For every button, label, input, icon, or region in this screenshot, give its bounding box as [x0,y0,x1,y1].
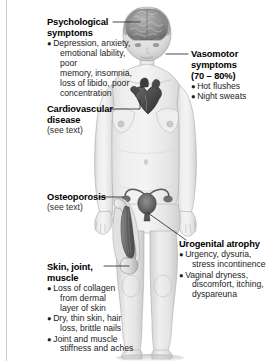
list-item-line: emotional lability, poor [54,49,143,69]
callout-vasomotor-symptoms: Vasomotor symptoms (70 – 80%) ●Hot flush… [191,49,271,102]
callout-heading: Cardiovascular [47,104,139,115]
list-item-line: Dry, thin skin, hair [53,313,121,323]
callout-heading-line2: symptoms [47,28,142,39]
list-item: ●Night sweats [191,92,271,102]
callout-list: ●Loss of collagen from dermal layer of s… [47,284,139,354]
callout-osteoporosis: Osteoporosis (see text) [47,192,127,213]
callout-heading: Urogenital atrophy [179,239,275,250]
menopause-symptoms-figure: Psychological symptoms ●Depression, anxi… [0,0,276,361]
list-item-line: Joint and muscle [53,334,118,344]
callout-note: (see text) [47,126,139,136]
list-item-line: concentration [54,89,143,99]
list-item-line: dyspareuna [186,290,276,300]
list-item: ●Loss of collagen from dermal layer of s… [47,284,139,314]
callout-heading-line2: symptoms [191,60,271,71]
callout-heading-line2: disease [47,115,139,126]
callout-cardiovascular-disease: Cardiovascular disease (see text) [47,104,139,136]
list-item-line: Vaginal dryness, [185,270,248,280]
callout-skin-joint-muscle: Skin, joint, muscle ●Loss of collagen fr… [47,262,139,355]
callout-psychological-symptoms: Psychological symptoms ●Depression, anxi… [47,17,142,99]
list-item-line: Hot flushes [197,81,240,91]
list-item: ●Depression, anxiety, emotional lability… [47,39,142,99]
callout-list: ●Hot flushes ●Night sweats [191,82,271,102]
list-item-line: stiffness and aches [54,344,140,354]
list-item: ●Joint and muscle stiffness and aches [47,335,139,355]
callout-list: ●Urgency, dysuria, stress incontinence ●… [179,250,275,300]
list-item: ●Urgency, dysuria, stress incontinence [179,250,275,270]
callout-urogenital-atrophy: Urogenital atrophy ●Urgency, dysuria, st… [179,239,275,301]
callout-heading-line2: muscle [47,273,139,284]
list-item: ●Vaginal dryness, discomfort, itching, d… [179,271,275,301]
callout-list: ●Depression, anxiety, emotional lability… [47,39,142,99]
callout-heading: Psychological [47,17,142,28]
list-item-line: Loss of collagen [53,283,115,293]
list-item-line: Urgency, dysuria, [185,249,251,259]
callout-heading-line3: (70 – 80%) [191,71,271,82]
list-item-line: Depression, anxiety, [53,38,130,48]
callout-heading: Skin, joint, [47,262,139,273]
callout-heading: Vasomotor [191,49,271,60]
callout-note: (see text) [47,203,127,213]
list-item-line: Night sweats [197,91,246,101]
list-item: ●Dry, thin skin, hair loss, brittle nail… [47,314,139,334]
